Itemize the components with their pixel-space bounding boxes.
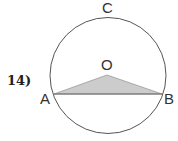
shaded-triangle-AOB [54,75,162,94]
circle-diagram: C O A B [0,0,178,141]
label-C: C [102,0,113,16]
label-A: A [40,90,50,107]
label-O: O [101,56,113,73]
label-B: B [164,90,174,107]
